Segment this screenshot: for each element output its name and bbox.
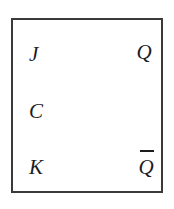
q-bar-glyph-wrapper: Q [139,155,154,178]
pin-label-q: Q [137,42,152,63]
pin-label-c: C [29,101,43,122]
pin-label-j: J [29,44,39,65]
pin-label-q-bar: Q [139,155,154,178]
overline-bar-icon [140,150,154,152]
diagram-canvas: J C K Q Q [0,0,174,209]
pin-label-q-bar-text: Q [139,155,154,179]
pin-label-k: K [29,157,43,178]
